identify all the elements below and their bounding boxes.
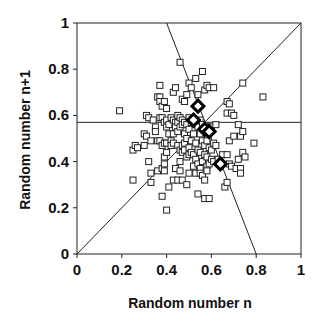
y-tick-label: 0.4 bbox=[48, 153, 70, 170]
scatter-chart: 00.20.40.60.8100.20.40.60.81 Random numb… bbox=[0, 0, 320, 322]
data-point bbox=[224, 179, 230, 185]
y-tick-label: 0.2 bbox=[48, 199, 69, 216]
data-point bbox=[157, 82, 163, 88]
y-tick-label: 0.6 bbox=[48, 106, 69, 123]
data-point bbox=[148, 179, 154, 185]
data-point bbox=[193, 75, 199, 81]
data-point bbox=[161, 161, 167, 167]
data-point bbox=[199, 69, 205, 75]
data-point bbox=[238, 170, 244, 176]
data-point bbox=[226, 101, 232, 107]
data-point bbox=[182, 99, 188, 105]
data-point bbox=[161, 168, 167, 174]
x-tick-label: 0.4 bbox=[156, 261, 178, 278]
data-point bbox=[159, 193, 165, 199]
data-point bbox=[164, 207, 170, 213]
data-point bbox=[166, 184, 172, 190]
data-point bbox=[130, 177, 136, 183]
data-point bbox=[202, 177, 208, 183]
data-point bbox=[152, 129, 158, 135]
data-point bbox=[240, 129, 246, 135]
data-point bbox=[146, 159, 152, 165]
data-point bbox=[195, 92, 201, 98]
data-point bbox=[231, 133, 237, 139]
data-point bbox=[224, 152, 230, 158]
y-tick-label: 0 bbox=[61, 245, 69, 262]
data-point bbox=[206, 196, 212, 202]
x-tick-label: 0.8 bbox=[246, 261, 267, 278]
data-point bbox=[184, 92, 190, 98]
data-point bbox=[213, 122, 219, 128]
x-tick-label: 0.2 bbox=[111, 261, 132, 278]
data-point bbox=[173, 85, 179, 91]
data-point bbox=[195, 191, 201, 197]
data-point bbox=[231, 112, 237, 118]
data-point bbox=[148, 138, 154, 144]
data-point bbox=[141, 142, 147, 148]
data-point bbox=[164, 149, 170, 155]
data-point bbox=[177, 159, 183, 165]
data-point bbox=[260, 94, 266, 100]
data-point bbox=[193, 140, 199, 146]
data-point bbox=[184, 182, 190, 188]
data-point bbox=[211, 85, 217, 91]
y-axis-label: Random number n+1 bbox=[17, 70, 33, 210]
data-point bbox=[242, 154, 248, 160]
data-point bbox=[150, 117, 156, 123]
x-axis-label: Random number n bbox=[128, 295, 252, 311]
data-point bbox=[177, 168, 183, 174]
data-point bbox=[251, 140, 257, 146]
data-point bbox=[164, 105, 170, 111]
data-point bbox=[186, 170, 192, 176]
data-point bbox=[134, 145, 140, 151]
data-point bbox=[235, 122, 241, 128]
data-point bbox=[190, 131, 196, 137]
x-tick-label: 0.6 bbox=[201, 261, 222, 278]
data-point bbox=[235, 156, 241, 162]
y-tick-label: 1 bbox=[61, 14, 69, 31]
data-point bbox=[204, 168, 210, 174]
data-point bbox=[117, 108, 123, 114]
data-point bbox=[240, 80, 246, 86]
data-point bbox=[177, 59, 183, 65]
data-point bbox=[188, 85, 194, 91]
data-point bbox=[148, 170, 154, 176]
data-point bbox=[161, 99, 167, 105]
data-point bbox=[213, 142, 219, 148]
x-tick-label: 1 bbox=[297, 261, 305, 278]
y-tick-label: 0.8 bbox=[48, 60, 69, 77]
x-tick-label: 0 bbox=[73, 261, 81, 278]
highlighted-point bbox=[192, 100, 204, 112]
